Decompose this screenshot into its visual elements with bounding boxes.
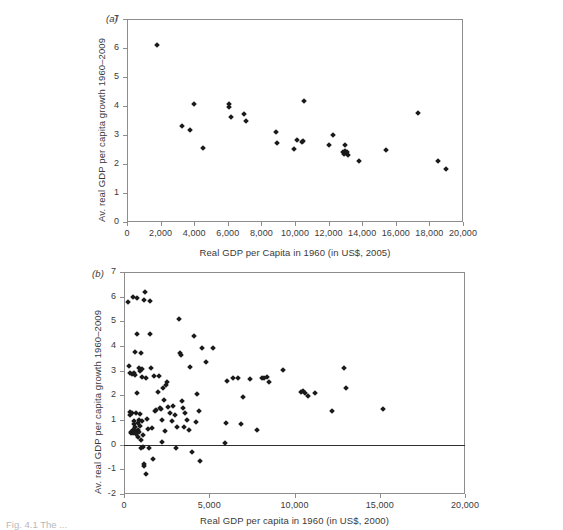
y-axis-tick: [123, 193, 127, 194]
y-axis-tick: [123, 106, 127, 107]
x-axis-tick: [362, 222, 363, 226]
x-axis-title-a: Real GDP per Capita in 1960 (in US$, 200…: [127, 247, 463, 258]
plot-area-a: [127, 19, 463, 222]
y-axis-tick-label: 4: [90, 340, 116, 350]
x-axis-title-b: Real GDP per capita in 1960 (in US$, 200…: [124, 515, 465, 526]
y-axis-tick-label: 1: [90, 414, 116, 424]
y-axis-tick-label: 4: [93, 100, 119, 110]
y-axis-tick-label: 6: [90, 291, 116, 301]
x-axis-tick-label: 20,000: [440, 500, 490, 510]
x-axis-tick: [228, 222, 229, 226]
chart-panel-b: (b) Av. real GDP per capita growth 1960–…: [0, 262, 563, 514]
y-axis-tick-label: -2: [90, 488, 116, 498]
x-axis-tick: [161, 222, 162, 226]
figure-caption: Fig. 4.1 The ...: [6, 519, 67, 530]
x-axis-tick: [295, 222, 296, 226]
chart-panel-a: (a) Av. real GDP per capita growth 1960–…: [0, 0, 563, 262]
x-axis-tick: [261, 222, 262, 226]
y-axis-tick-label: 0: [93, 216, 119, 226]
y-axis-tick-label: 0: [90, 439, 116, 449]
y-axis-tick-label: 5: [90, 315, 116, 325]
x-axis-tick-label: 5,000: [184, 500, 234, 510]
y-axis-tick-label: 6: [93, 42, 119, 52]
x-axis-tick: [295, 494, 296, 498]
y-axis-tick: [123, 135, 127, 136]
y-axis-tick: [120, 297, 124, 298]
y-axis-tick: [123, 164, 127, 165]
x-axis-tick: [209, 494, 210, 498]
x-axis-tick-label: 0: [99, 500, 149, 510]
y-axis-tick: [123, 19, 127, 20]
y-axis-tick: [120, 371, 124, 372]
y-axis-tick-label: -1: [90, 463, 116, 473]
plot-area-b: [124, 272, 465, 494]
y-axis-tick-label: 3: [90, 365, 116, 375]
y-axis-tick: [120, 395, 124, 396]
y-axis-tick-label: 5: [93, 71, 119, 81]
y-axis-tick: [120, 346, 124, 347]
y-axis-tick: [123, 77, 127, 78]
y-axis-tick: [120, 469, 124, 470]
y-axis-tick: [120, 272, 124, 273]
x-axis-tick: [380, 494, 381, 498]
y-axis-tick-label: 2: [90, 389, 116, 399]
x-axis-tick-label: 15,000: [355, 500, 405, 510]
x-axis-tick: [127, 222, 128, 226]
x-axis-tick: [465, 494, 466, 498]
x-axis-tick: [194, 222, 195, 226]
x-axis-tick: [463, 222, 464, 226]
x-axis-tick-label: 10,000: [270, 500, 320, 510]
y-axis-tick-label: 1: [93, 187, 119, 197]
y-axis-tick: [120, 420, 124, 421]
y-axis-tick-label: 7: [90, 266, 116, 276]
x-axis-tick: [429, 222, 430, 226]
x-axis-tick-label: 20,000: [438, 228, 488, 238]
y-axis-tick: [120, 321, 124, 322]
y-axis-tick-label: 7: [93, 13, 119, 23]
x-axis-tick: [396, 222, 397, 226]
x-axis-tick: [329, 222, 330, 226]
figure-container: (a) Av. real GDP per capita growth 1960–…: [0, 0, 563, 530]
y-axis-tick-label: 3: [93, 129, 119, 139]
x-axis-tick: [124, 494, 125, 498]
y-axis-tick-label: 2: [93, 158, 119, 168]
y-axis-tick: [123, 48, 127, 49]
